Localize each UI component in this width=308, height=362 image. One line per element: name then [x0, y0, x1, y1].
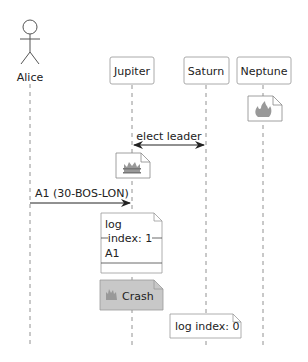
stick-figure-icon — [20, 20, 40, 64]
note-jupiter-crown — [116, 153, 150, 178]
message-label-a1: A1 (30-BOS-LON) — [35, 187, 129, 200]
crash-label: Crash — [122, 290, 154, 303]
log-divider-label: index: 1 — [108, 232, 152, 245]
saturn-log-label: log index: 0 — [175, 320, 240, 333]
participant-saturn: Saturn — [184, 57, 229, 84]
sequence-diagram: Alice Jupiter Saturn Neptune elect leade… — [0, 0, 308, 362]
actor-label-alice: Alice — [17, 71, 44, 84]
note-log: log index: 1 A1 — [101, 213, 162, 273]
participant-label-jupiter: Jupiter — [113, 65, 150, 78]
message-elect-leader: elect leader — [134, 130, 204, 145]
participant-neptune: Neptune — [237, 57, 291, 84]
message-a1: A1 (30-BOS-LON) — [30, 187, 130, 203]
participant-label-neptune: Neptune — [240, 65, 287, 78]
log-title: log — [105, 218, 122, 231]
log-entry: A1 — [105, 247, 120, 260]
note-neptune-fire — [248, 96, 282, 121]
participant-label-saturn: Saturn — [188, 65, 224, 78]
note-saturn-log: log index: 0 — [170, 314, 241, 338]
message-label-elect-leader: elect leader — [136, 130, 202, 143]
participant-jupiter: Jupiter — [110, 57, 154, 84]
actor-alice: Alice — [17, 20, 44, 84]
note-crash: Crash — [100, 280, 163, 310]
